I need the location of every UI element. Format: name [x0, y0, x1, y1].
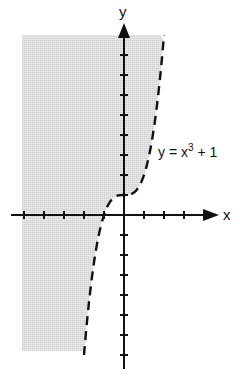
shaded-region [22, 35, 164, 351]
graph-canvas: x y y = x3 + 1 [0, 0, 240, 378]
y-axis-arrow-icon [118, 23, 130, 38]
y-axis-label: y [119, 3, 127, 20]
x-axis-label: x [223, 206, 231, 223]
x-axis-arrow-icon [203, 209, 219, 221]
equation-label: y = x3 + 1 [158, 142, 217, 160]
